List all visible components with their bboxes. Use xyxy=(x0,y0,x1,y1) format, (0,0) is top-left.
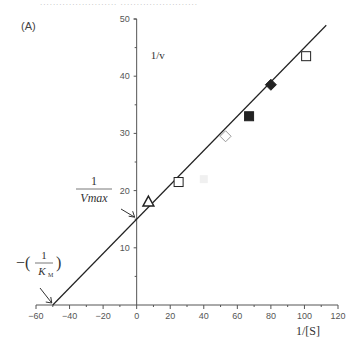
x-axis-label: 1/[S] xyxy=(296,324,320,338)
y-tick-label: 40 xyxy=(120,71,130,81)
x-tick-label: 120 xyxy=(330,311,345,321)
x-tick-label: −20 xyxy=(95,311,110,321)
y-tick-label: 20 xyxy=(120,186,130,196)
x-tick-label: 0 xyxy=(134,311,139,321)
x-tick-label: 100 xyxy=(297,311,312,321)
annotations: 1Vmax−(1KM) xyxy=(16,174,208,303)
x-tick-label: −60 xyxy=(28,311,43,321)
data-markers xyxy=(143,52,311,206)
x-tick-label: 60 xyxy=(232,311,242,321)
vmax-arrow-shaft xyxy=(121,209,135,217)
km-suffix: ) xyxy=(56,254,61,272)
filled-diamond-marker xyxy=(265,79,276,90)
vmax-numerator: 1 xyxy=(91,174,97,188)
regression-line xyxy=(53,25,326,305)
y-tick-label: 50 xyxy=(120,14,130,24)
vmax-denominator: Vmax xyxy=(80,191,108,205)
x-tick-label: −40 xyxy=(62,311,77,321)
km-denominator: K xyxy=(37,265,46,277)
y-tick-label: 30 xyxy=(120,128,130,138)
y-tick-label: 10 xyxy=(120,243,130,253)
open-square-marker xyxy=(174,178,183,187)
axes: −60−40−200204060801001201/[S]10203040501… xyxy=(28,14,345,338)
faint-artifact xyxy=(200,175,208,183)
open-square-marker xyxy=(302,52,311,61)
filled-square-marker xyxy=(245,112,254,121)
x-tick-label: 40 xyxy=(199,311,209,321)
lineweaver-burk-plot: −60−40−200204060801001201/[S]10203040501… xyxy=(0,0,357,351)
km-arrow-shaft xyxy=(40,288,52,303)
x-tick-label: 20 xyxy=(165,311,175,321)
fit-line xyxy=(53,25,326,305)
km-numerator: 1 xyxy=(41,249,47,261)
km-subscript: M xyxy=(48,272,54,278)
y-axis-label: 1/v xyxy=(151,49,166,61)
km-prefix: −( xyxy=(16,254,30,272)
x-tick-label: 80 xyxy=(266,311,276,321)
open-triangle-marker xyxy=(143,196,154,206)
